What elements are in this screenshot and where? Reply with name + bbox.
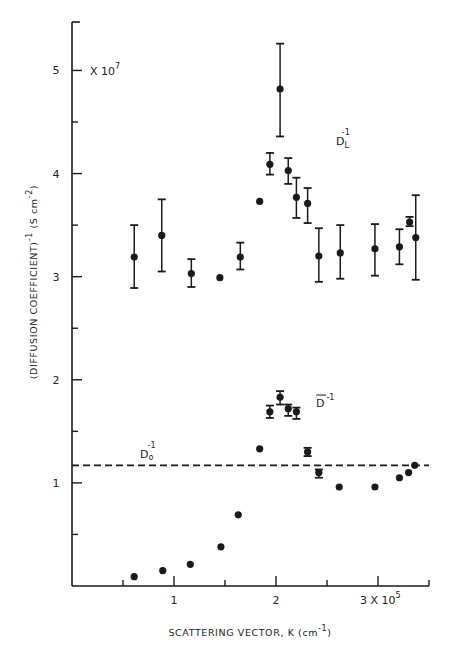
- x-tick-label: 2: [273, 594, 280, 607]
- data-point: [256, 198, 263, 205]
- data-point: [216, 274, 223, 281]
- data-point: [304, 200, 311, 207]
- reference-line-label: Do-1: [140, 441, 156, 462]
- y-tick-label: 2: [53, 374, 60, 387]
- axes: [72, 22, 429, 586]
- data-point: [266, 408, 273, 415]
- data-marks: [130, 44, 420, 581]
- x-tick-label: 1: [171, 594, 178, 607]
- data-point: [187, 561, 194, 568]
- y-multiplier-label: X 107: [90, 62, 120, 78]
- data-point: [315, 252, 322, 259]
- data-point: [256, 445, 263, 452]
- data-point: [285, 405, 292, 412]
- y-tick-label: 5: [53, 64, 60, 77]
- data-point: [371, 483, 378, 490]
- data-point: [293, 194, 300, 201]
- data-point: [266, 161, 273, 168]
- data-point: [304, 448, 311, 455]
- data-point: [237, 253, 244, 260]
- data-point: [131, 573, 138, 580]
- series-dbar: [131, 391, 419, 580]
- y-axis-title: (DIFFUSION COEFFICIENT)-1 (S cm-2): [25, 185, 39, 379]
- y-ticks: 12345: [53, 64, 83, 534]
- y-tick-label: 3: [53, 271, 60, 284]
- chart: 12345 12 X 107 3 X 105 SCATTERING VECTOR…: [0, 0, 454, 655]
- data-point: [396, 474, 403, 481]
- data-point: [159, 567, 166, 574]
- series-label-dl: DL-1: [336, 128, 350, 150]
- data-point: [158, 232, 165, 239]
- series-label-dbar: D-1: [316, 393, 334, 410]
- data-point: [285, 167, 292, 174]
- data-point: [217, 543, 224, 550]
- x-axis-title: SCATTERING VECTOR, K (cm-1): [168, 624, 331, 638]
- data-point: [276, 85, 283, 92]
- data-point: [406, 218, 413, 225]
- data-point: [411, 462, 418, 469]
- data-point: [131, 253, 138, 260]
- data-point: [235, 511, 242, 518]
- data-point: [337, 249, 344, 256]
- data-point: [412, 234, 419, 241]
- x-multiplier-label: 3 X 105: [360, 591, 401, 607]
- data-point: [188, 270, 195, 277]
- series-dl: [130, 44, 420, 288]
- data-point: [405, 469, 412, 476]
- data-point: [371, 245, 378, 252]
- data-point: [315, 469, 322, 476]
- y-tick-label: 4: [53, 168, 60, 181]
- data-point: [396, 243, 403, 250]
- y-tick-label: 1: [53, 477, 60, 490]
- data-point: [336, 483, 343, 490]
- data-point: [293, 408, 300, 415]
- svg-text:D-1: D-1: [316, 393, 334, 410]
- data-point: [276, 394, 283, 401]
